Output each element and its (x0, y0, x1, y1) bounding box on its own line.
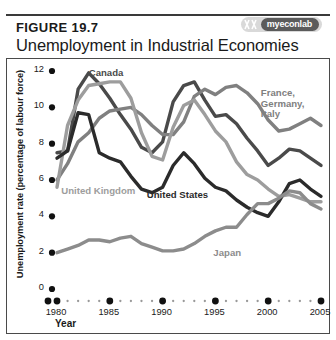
y-tick-label: 10 (28, 100, 44, 110)
series-label: United Kingdom (61, 186, 135, 197)
series-label: France,Germany,Italy (261, 88, 305, 120)
y-tick-label: 6 (28, 173, 44, 183)
figure-number: FIGURE 19.7 (16, 20, 98, 35)
x-tick-label: 1980 (39, 307, 73, 317)
x-axis-title: Year (55, 318, 76, 329)
y-tick-label: 0 (28, 282, 44, 292)
myeconlab-logo-icon (243, 19, 259, 30)
y-axis-title: Unemployment rate (percentage of labour … (15, 58, 25, 290)
y-tick-label: 4 (28, 209, 44, 219)
x-tick-label: 1990 (145, 307, 179, 317)
y-tick-label: 8 (28, 137, 44, 147)
header-divider (6, 14, 330, 16)
y-axis-ticks (49, 68, 55, 292)
series-label: Canada (89, 68, 124, 79)
myeconlab-wordmark: myeconlab (261, 18, 319, 31)
myeconlab-badge[interactable]: myeconlab (241, 17, 322, 32)
series-label: Japan (213, 248, 241, 259)
x-tick-label: 1995 (197, 307, 231, 317)
x-tick-label: 2000 (250, 307, 284, 317)
y-tick-label: 2 (28, 246, 44, 256)
x-tick-label: 2005 (303, 307, 336, 317)
series-label: United States (147, 190, 208, 201)
x-tick-label: 1985 (92, 307, 126, 317)
x-axis-minor-ticks (66, 300, 311, 302)
figure-card: FIGURE 19.7 Unemployment in Industrial E… (0, 0, 336, 340)
figure-title: Unemployment in Industrial Economies (16, 36, 299, 55)
y-tick-label: 12 (28, 64, 44, 74)
